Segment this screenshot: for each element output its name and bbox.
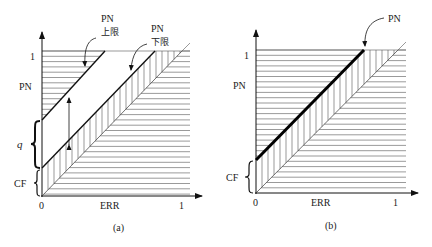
caption-b: (b) [325, 220, 337, 232]
panel-b: 1 PN CF 0 ERR 1 (b) PN [226, 13, 418, 232]
x-tick-0-a: 0 [39, 200, 44, 211]
y-tick-1-b: 1 [244, 50, 249, 61]
pn-callout-arrow [365, 18, 384, 46]
upper-annot-text: 上限 [101, 27, 119, 37]
diagonal-line-a [42, 51, 182, 196]
diagonal-extension [398, 42, 406, 50]
y-axis-label-b: PN [233, 80, 246, 91]
lower-annot-text: 下限 [151, 37, 169, 47]
pn-err-diagram: 1 PN q CF 0 ERR 1 (a) PN 上限 PN 下限 1 PN C… [0, 0, 432, 247]
x-tick-0-b: 0 [253, 197, 258, 208]
upper-annot-pn: PN [101, 13, 114, 24]
cf-label-b: CF [226, 172, 239, 183]
panel-a: 1 PN q CF 0 ERR 1 (a) PN 上限 PN 下限 [14, 13, 202, 234]
cf-brace [34, 170, 40, 196]
caption-a: (a) [113, 222, 124, 234]
lower-bound-callout-arrow [131, 44, 147, 70]
y-axis-label-a: PN [19, 81, 32, 92]
y-tick-1-a: 1 [30, 51, 35, 62]
x-axis-label-a: ERR [100, 200, 120, 211]
x-axis-label-b: ERR [311, 197, 331, 208]
pn-point-line [256, 50, 364, 160]
diagonal-extension [182, 43, 190, 51]
x-tick-1-a: 1 [179, 200, 184, 211]
cf-label-a: CF [14, 178, 27, 189]
pn-annot-b: PN [388, 13, 401, 24]
cf-brace-b [245, 161, 253, 193]
q-brace [31, 121, 40, 168]
hatch-pattern-b [256, 42, 406, 188]
lower-annot-pn: PN [151, 23, 164, 34]
x-tick-1-b: 1 [393, 197, 398, 208]
q-label: q [17, 138, 23, 150]
